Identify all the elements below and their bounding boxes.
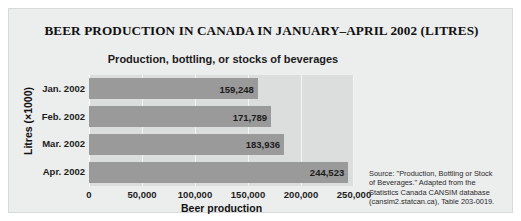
- bar-value-feb: 171,789: [233, 111, 267, 122]
- bar-value-jan: 159,248: [219, 83, 253, 94]
- bar-value-mar: 183,936: [246, 139, 280, 150]
- bar-row: 244,523: [89, 162, 354, 183]
- y-axis-tick-labels: Jan. 2002 Feb. 2002 Mar. 2002 Apr. 2002: [35, 75, 85, 186]
- source-note-line-4: (cansim2.statcan.ca), Table 203-0019.: [369, 197, 519, 206]
- figure-title: BEER PRODUCTION IN CANADA IN JANUARY–APR…: [9, 23, 514, 39]
- plot-area: 159,248 171,789 183,936 244,523: [89, 75, 354, 186]
- x-tick-label-150000: 150,000: [231, 189, 265, 200]
- source-note-line-3: Statistics Canada CANSIM database: [369, 188, 519, 197]
- y-tick-label-jan: Jan. 2002: [42, 83, 85, 94]
- x-tick-label-50000: 50,000: [127, 189, 156, 200]
- source-note-line-2: of Beverages." Adapted from the: [369, 178, 519, 187]
- bar-row: 159,248: [89, 78, 354, 99]
- x-tick-label-250000: 250,000: [337, 189, 371, 200]
- x-tick-label-100000: 100,000: [178, 189, 212, 200]
- bar-value-apr: 244,523: [310, 167, 344, 178]
- figure-container: BEER PRODUCTION IN CANADA IN JANUARY–APR…: [8, 8, 513, 213]
- y-tick-label-apr: Apr. 2002: [43, 166, 85, 177]
- x-axis-title: Beer production: [89, 202, 354, 214]
- source-note-line-1: Source: "Production, Bottling or Stock: [369, 169, 519, 178]
- x-tick-label-0: 0: [86, 189, 91, 200]
- bar-row: 183,936: [89, 134, 354, 155]
- source-note: Source: "Production, Bottling or Stock o…: [369, 169, 519, 207]
- chart-title: Production, bottling, or stocks of bever…: [87, 53, 359, 65]
- y-tick-label-feb: Feb. 2002: [42, 111, 85, 122]
- y-tick-label-mar: Mar. 2002: [42, 138, 85, 149]
- x-tick-label-200000: 200,000: [284, 189, 318, 200]
- bar-row: 171,789: [89, 106, 354, 127]
- y-axis-title: Litres (×1000): [22, 71, 34, 171]
